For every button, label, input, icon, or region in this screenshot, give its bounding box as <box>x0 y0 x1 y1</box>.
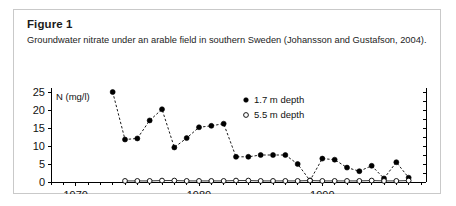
data-point <box>135 136 140 141</box>
figure-title: Figure 1 <box>27 18 73 30</box>
data-point <box>209 179 214 184</box>
data-point <box>160 178 165 183</box>
data-point <box>123 137 128 142</box>
data-point <box>258 179 263 184</box>
data-point <box>258 153 263 158</box>
data-point <box>110 90 115 95</box>
legend-marker-1 <box>244 113 249 118</box>
data-point <box>221 121 226 126</box>
data-point <box>357 169 362 174</box>
data-point <box>184 136 189 141</box>
y-tick-label: 25 <box>33 86 45 98</box>
data-point <box>394 160 399 165</box>
data-point <box>308 178 313 183</box>
data-point <box>345 165 350 170</box>
legend-label-1: 5.5 m depth <box>254 109 304 120</box>
x-axis-ticks: 197019801990 <box>51 182 421 194</box>
data-point <box>295 179 300 184</box>
x-tick-label: 1980 <box>187 189 211 194</box>
data-point <box>369 163 374 168</box>
y-axis-ticks: 0510152025 <box>33 86 426 188</box>
data-point <box>197 179 202 184</box>
data-point <box>123 179 128 184</box>
data-point <box>345 179 350 184</box>
y-tick-label: 15 <box>33 122 45 134</box>
data-point <box>283 179 288 184</box>
data-point <box>394 179 399 184</box>
data-point <box>197 125 202 130</box>
chart-axes <box>51 88 426 182</box>
data-point <box>271 179 276 184</box>
figure-card: Figure 1 Groundwater nitrate under an ar… <box>13 9 441 194</box>
y-tick-label: 10 <box>33 140 45 152</box>
data-point <box>382 179 387 184</box>
data-point <box>234 178 239 183</box>
data-point <box>271 153 276 158</box>
data-point <box>320 156 325 161</box>
data-point <box>246 154 251 159</box>
data-point <box>135 179 140 184</box>
legend-marker-0 <box>244 98 249 103</box>
data-point <box>172 145 177 150</box>
data-point <box>172 178 177 183</box>
series-line-0 <box>113 92 409 181</box>
data-point <box>160 107 165 112</box>
x-tick-label: 1990 <box>310 189 334 194</box>
data-point <box>221 179 226 184</box>
y-tick-label: 0 <box>39 176 45 188</box>
legend-label-0: 1.7 m depth <box>254 94 304 105</box>
y-tick-label: 20 <box>33 104 45 116</box>
data-point <box>283 153 288 158</box>
x-tick-label: 1970 <box>63 189 87 194</box>
data-point <box>320 179 325 184</box>
data-point <box>332 157 337 162</box>
chart-legend: 1.7 m depth5.5 m depth <box>244 94 305 120</box>
y-axis-label: N (mg/l) <box>56 91 90 102</box>
data-point <box>147 118 152 123</box>
data-point <box>147 179 152 184</box>
chart-plot-area: 0510152025 197019801990 N (mg/l) 1.7 m d… <box>14 70 442 194</box>
data-point <box>295 162 300 167</box>
data-point <box>369 178 374 183</box>
data-point <box>406 178 411 183</box>
data-point <box>357 179 362 184</box>
data-point <box>332 179 337 184</box>
data-point <box>234 154 239 159</box>
data-point <box>209 123 214 128</box>
y-tick-label: 5 <box>39 158 45 170</box>
data-point <box>184 179 189 184</box>
data-point <box>246 178 251 183</box>
figure-caption: Groundwater nitrate under an arable fiel… <box>27 34 431 47</box>
nitrate-line-chart: 0510152025 197019801990 N (mg/l) 1.7 m d… <box>14 70 442 194</box>
